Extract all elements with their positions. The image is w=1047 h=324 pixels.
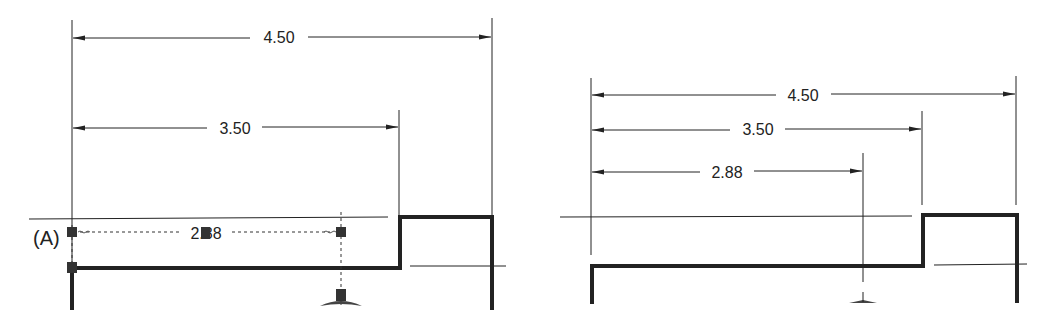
right-drawing: 4.50 3.50 2.88 [560, 76, 1027, 304]
dimension-text: 3.50 [742, 121, 773, 138]
grip-square-icon[interactable] [336, 227, 346, 237]
grip-square-icon[interactable] [336, 289, 346, 301]
reference-line-top [560, 216, 912, 217]
dimension-3-50-left[interactable]: 3.50 [73, 120, 398, 137]
grip-square-icon[interactable] [67, 262, 77, 273]
point-label: (A) [33, 227, 60, 249]
cad-drawing-canvas: 4.50 3.50 2.88 [0, 0, 1047, 324]
grip-square-icon[interactable] [67, 227, 77, 237]
dimension-2-88-in-progress[interactable]: 2.88 [72, 212, 341, 305]
dimension-text: 4.50 [263, 29, 294, 46]
cursor-marker-icon [320, 301, 362, 306]
dimension-4-50-right[interactable]: 4.50 [592, 87, 1015, 104]
left-drawing: 4.50 3.50 2.88 [29, 18, 506, 310]
part-profile[interactable] [592, 215, 1017, 304]
text-grip-icon[interactable] [201, 227, 210, 239]
reference-line-top [29, 217, 388, 219]
dimension-3-50-right[interactable]: 3.50 [592, 121, 921, 138]
dimension-2-88-right[interactable]: 2.88 [592, 164, 862, 181]
dimension-4-50-left[interactable]: 4.50 [73, 29, 491, 46]
reference-line-bottom [934, 264, 1027, 265]
dimension-text: 3.50 [219, 120, 250, 137]
part-profile[interactable] [72, 217, 492, 310]
dimension-text: 2.88 [711, 164, 742, 181]
dimension-text: 4.50 [787, 87, 818, 104]
